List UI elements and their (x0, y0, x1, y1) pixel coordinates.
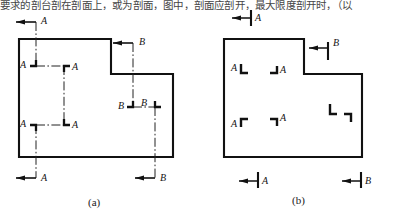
label-a-corner-bottom-right: A (71, 119, 79, 130)
label-b-a-corner-top-right: A (279, 64, 287, 75)
figure-root: 要求的剖台剖在剖面上，或为剖面，图中，剖面应剖开，最大限度剖开时，（以 (0, 0, 393, 217)
section-corner-marks-b-b-b (330, 104, 351, 122)
label-a-top-arrow: A (40, 15, 48, 26)
label-b-bottom-arrow: B (160, 172, 166, 183)
label-b-b-bottom-arrow: B (365, 175, 371, 186)
label-a-corner-bottom-left: A (19, 118, 27, 129)
caption-b: (b) (292, 194, 305, 206)
label-b-corner-right: B (141, 97, 147, 108)
section-arrow-b-bottom-b (342, 172, 361, 188)
part-outline-b (224, 39, 362, 157)
section-arrow-b-top (113, 40, 133, 45)
diagram-b: A A A A A A B B (196, 0, 393, 217)
section-arrow-a-top (16, 19, 36, 24)
part-outline-a (19, 39, 173, 157)
label-a-bottom-arrow: A (40, 172, 48, 183)
section-arrow-b-top-b (309, 42, 328, 60)
label-b-a-corner-bottom-left: A (230, 118, 238, 129)
diagram-a: A A A A A A B B B B (0, 0, 200, 217)
caption-a: (a) (88, 196, 100, 208)
section-line-a-a (36, 22, 64, 178)
section-arrow-a-top-b (232, 10, 251, 26)
section-arrow-a-bottom (16, 175, 36, 180)
label-a-corner-top-right: A (71, 61, 79, 72)
label-a-corner-top-left: A (19, 59, 27, 70)
label-b-a-top-arrow: A (254, 12, 262, 23)
label-b-a-corner-top-left: A (230, 62, 238, 73)
label-b-b-top-arrow: B (333, 37, 339, 48)
label-b-a-corner-bottom-right: A (279, 112, 287, 123)
section-corner-marks-a-a (30, 60, 70, 131)
label-b-a-bottom-arrow: A (261, 175, 269, 186)
label-b-corner-left: B (118, 100, 124, 111)
label-b-top-arrow: B (139, 36, 145, 47)
section-arrow-b-bottom (135, 175, 155, 180)
section-corner-marks-a-a-b (241, 64, 277, 127)
section-arrow-a-bottom-b (239, 172, 258, 188)
